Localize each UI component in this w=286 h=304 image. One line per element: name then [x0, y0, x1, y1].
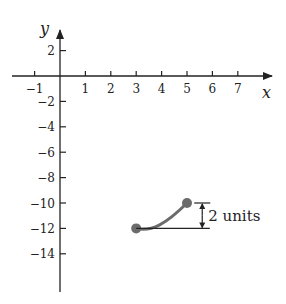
dimension-label: 2 units — [208, 207, 260, 225]
x-tick-label: 7 — [234, 82, 242, 96]
endpoint-dot — [182, 198, 192, 208]
y-tick-label: 2 — [47, 44, 55, 58]
x-tick-label: 4 — [158, 82, 166, 96]
dimension-annotation: 2 units — [136, 203, 260, 228]
plot-canvas: x y −11234567 2−2−4−6−8−10−12−14 2 units — [0, 0, 286, 304]
y-tick-label: −8 — [37, 171, 55, 185]
x-axis-ticks: −11234567 — [26, 71, 242, 96]
y-tick-label: −14 — [30, 247, 56, 261]
y-tick-label: −6 — [37, 146, 55, 160]
x-tick-label: 6 — [209, 82, 217, 96]
x-tick-label: 2 — [107, 82, 115, 96]
curve-path — [136, 203, 187, 229]
x-axis-label: x — [262, 83, 271, 102]
x-tick-label: −1 — [26, 82, 44, 96]
x-tick-label: 1 — [82, 82, 90, 96]
x-tick-label: 5 — [183, 82, 191, 96]
coordinate-diagram: x y −11234567 2−2−4−6−8−10−12−14 2 units — [0, 0, 286, 304]
y-tick-label: −4 — [37, 120, 55, 134]
y-tick-label: −10 — [30, 197, 55, 211]
y-axis-label: y — [39, 19, 50, 38]
x-tick-label: 3 — [132, 82, 140, 96]
y-tick-label: −12 — [30, 222, 55, 236]
y-tick-label: −2 — [37, 95, 55, 109]
